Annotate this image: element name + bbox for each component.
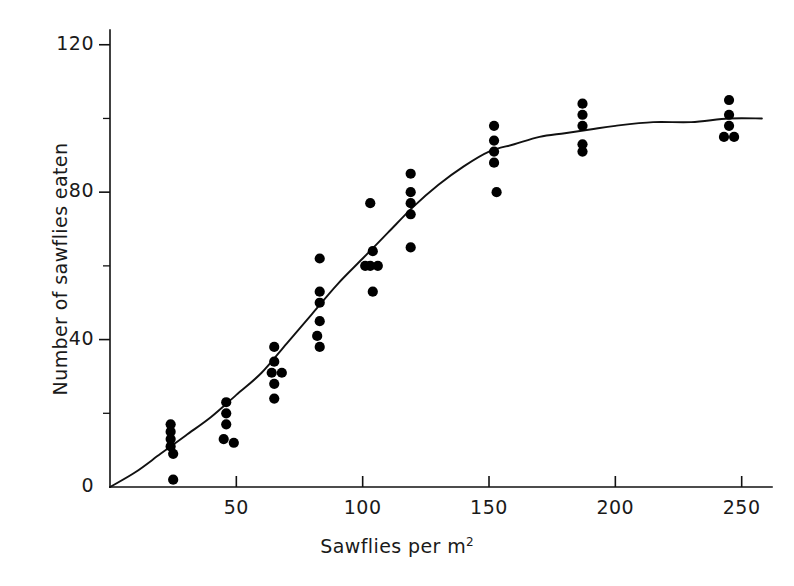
data-point <box>577 147 587 157</box>
x-axis-label-text: Sawflies per m <box>320 535 466 557</box>
data-point <box>221 419 231 429</box>
data-point <box>277 368 287 378</box>
data-point <box>724 110 734 120</box>
x-axis-tick-label: 100 <box>328 496 398 518</box>
data-point <box>719 132 729 142</box>
data-point <box>406 198 416 208</box>
data-point <box>219 434 229 444</box>
data-point <box>312 331 322 341</box>
data-point <box>724 121 734 131</box>
data-point <box>577 121 587 131</box>
data-point <box>406 187 416 197</box>
y-axis-tick-label: 120 <box>32 32 94 54</box>
x-axis-tick-label: 250 <box>707 496 777 518</box>
data-point <box>577 110 587 120</box>
data-point <box>269 342 279 352</box>
data-point <box>269 357 279 367</box>
data-point <box>229 438 239 448</box>
data-point <box>489 121 499 131</box>
data-point <box>577 99 587 109</box>
data-point <box>729 132 739 142</box>
data-point <box>315 287 325 297</box>
data-point <box>168 449 178 459</box>
data-point <box>724 95 734 105</box>
data-point <box>489 158 499 168</box>
data-point <box>406 242 416 252</box>
y-axis-tick-label: 40 <box>32 327 94 349</box>
data-point <box>489 147 499 157</box>
fit-curve-path <box>110 118 762 487</box>
x-axis-tick-label: 150 <box>454 496 524 518</box>
x-axis-tick-label: 200 <box>580 496 650 518</box>
data-point <box>365 198 375 208</box>
data-point <box>168 475 178 485</box>
y-axis-tick-label: 80 <box>32 179 94 201</box>
data-points-group <box>166 95 740 485</box>
y-axis-label: Number of sawflies eaten <box>49 119 71 419</box>
data-point <box>360 261 370 271</box>
data-point <box>269 379 279 389</box>
data-point <box>269 393 279 403</box>
data-point <box>315 298 325 308</box>
data-point <box>315 316 325 326</box>
x-axis-label: Sawflies per m2 <box>247 535 547 557</box>
data-point <box>315 253 325 263</box>
data-point <box>221 408 231 418</box>
y-axis-tick-label: 0 <box>32 474 94 496</box>
x-axis-tick-label: 50 <box>201 496 271 518</box>
fit-curve <box>110 118 762 487</box>
data-point <box>315 342 325 352</box>
data-point <box>221 397 231 407</box>
data-point <box>491 187 501 197</box>
ticks-group <box>99 45 742 487</box>
figure-canvas: Number of sawflies eaten Sawflies per m2… <box>0 0 794 586</box>
data-point <box>406 209 416 219</box>
data-point <box>368 287 378 297</box>
data-point <box>267 368 277 378</box>
data-point <box>406 169 416 179</box>
x-axis-label-superscript: 2 <box>466 535 474 549</box>
data-point <box>368 246 378 256</box>
data-point <box>489 135 499 145</box>
